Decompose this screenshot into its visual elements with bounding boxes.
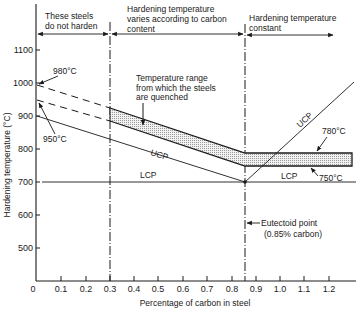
x-tick-labels: 0 0.1 0.2 0.3 0.4 0.5 0.6 0.7 0.8 0.9 1.… xyxy=(30,284,335,294)
label-950: 950°C xyxy=(43,134,67,144)
svg-text:0.5: 0.5 xyxy=(152,284,165,294)
svg-text:0.3: 0.3 xyxy=(104,284,117,294)
svg-text:900: 900 xyxy=(18,111,33,121)
region1-label: These steels xyxy=(45,11,93,21)
svg-text:800: 800 xyxy=(18,144,33,154)
svg-text:are quenched: are quenched xyxy=(136,92,188,102)
x-ticks xyxy=(61,276,329,281)
label-980: 980°C xyxy=(53,66,77,76)
svg-text:0.2: 0.2 xyxy=(80,284,93,294)
band-annotation: Temperature range from which the steels … xyxy=(136,73,216,102)
svg-text:0: 0 xyxy=(30,284,35,294)
critical-point-lines xyxy=(37,82,356,182)
svg-text:0.4: 0.4 xyxy=(128,284,141,294)
region-labels: These steels do not harden Hardening tem… xyxy=(45,4,337,34)
svg-text:varies according to carbon: varies according to carbon xyxy=(127,14,227,24)
svg-text:Temperature range: Temperature range xyxy=(136,73,208,83)
svg-text:500: 500 xyxy=(18,243,33,253)
svg-text:do not harden: do not harden xyxy=(45,21,98,31)
svg-text:0.6: 0.6 xyxy=(177,284,190,294)
hardening-temperature-chart: 500 600 700 800 900 1000 1100 0 0.1 0.2 … xyxy=(0,0,360,311)
eutectoid-label: Eutectoid point xyxy=(261,218,318,228)
arrow-980 xyxy=(39,76,58,84)
eutectoid-sublabel: (0.85% carbon) xyxy=(264,229,322,239)
svg-text:constant: constant xyxy=(249,23,282,33)
eutectoid-dot xyxy=(243,180,247,184)
y-axis-label: Hardening temperature (°C) xyxy=(2,112,12,217)
lcp-label-left: LCP xyxy=(140,170,157,180)
svg-text:1000: 1000 xyxy=(13,78,33,88)
svg-text:0.9: 0.9 xyxy=(250,284,263,294)
svg-text:1.1: 1.1 xyxy=(298,284,311,294)
arrow-780 xyxy=(317,137,327,151)
ucp-label-right: UCP xyxy=(295,110,315,130)
dashed-quench-extension xyxy=(37,85,110,121)
x-axis-label: Percentage of carbon in steel xyxy=(140,298,251,308)
svg-text:1.2: 1.2 xyxy=(323,284,336,294)
y-tick-labels: 500 600 700 800 900 1000 1100 xyxy=(13,45,33,253)
svg-text:content: content xyxy=(127,24,156,34)
arrow-950 xyxy=(39,103,55,134)
svg-text:700: 700 xyxy=(18,177,33,187)
svg-text:600: 600 xyxy=(18,210,33,220)
region-arrows xyxy=(38,34,333,35)
lcp-label-right: LCP xyxy=(281,171,298,181)
svg-text:0.1: 0.1 xyxy=(55,284,68,294)
svg-text:0.8: 0.8 xyxy=(226,284,239,294)
ucp-label-left: UCP xyxy=(149,147,169,162)
region3-label: Hardening temperature xyxy=(249,13,337,23)
svg-text:0.7: 0.7 xyxy=(201,284,214,294)
label-780: 780°C xyxy=(322,126,346,136)
arrow-750 xyxy=(311,168,318,176)
region2-label: Hardening temperature xyxy=(127,4,215,14)
label-750: 750°C xyxy=(319,173,343,183)
svg-text:1.0: 1.0 xyxy=(274,284,287,294)
svg-text:1100: 1100 xyxy=(14,45,33,55)
y-ticks xyxy=(36,50,40,248)
